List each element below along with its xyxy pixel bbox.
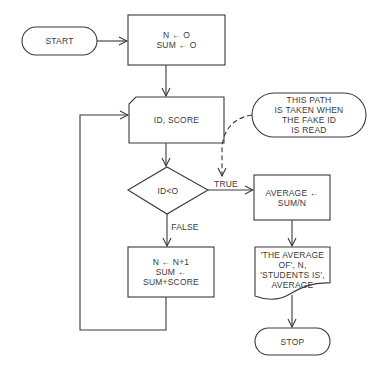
- false-edge-label: FALSE: [170, 222, 200, 232]
- init-label: N ← O SUM ← O: [128, 15, 225, 65]
- average-line-1: AVERAGE ←: [265, 188, 318, 198]
- output-line-4: AVERAGE: [272, 280, 314, 290]
- input-text: ID, SCORE: [154, 115, 199, 125]
- true-edge-label: TRUE: [212, 179, 240, 189]
- input-label: ID, SCORE: [129, 97, 224, 143]
- start-text: START: [45, 36, 73, 46]
- note-line-2: IS TAKEN WHEN: [275, 105, 344, 115]
- output-line-2: OF', N,: [278, 260, 306, 270]
- stop-text: STOP: [281, 337, 305, 347]
- accumulate-line-3: SUM+SCORE: [143, 277, 199, 287]
- average-label: AVERAGE ← SUM/N: [254, 175, 330, 220]
- output-label: 'THE AVERAGE OF', N, 'STUDENTS IS', AVER…: [255, 250, 330, 290]
- note-label: THIS PATH IS TAKEN WHEN THE FAKE ID IS R…: [252, 93, 366, 137]
- false-text: FALSE: [171, 222, 198, 232]
- init-line-1: N ← O: [163, 30, 190, 40]
- true-text: TRUE: [214, 179, 238, 189]
- edge-loop-back: [80, 115, 166, 330]
- output-line-1: 'THE AVERAGE: [261, 250, 324, 260]
- note-line-1: THIS PATH: [287, 95, 332, 105]
- init-line-2: SUM ← O: [156, 40, 196, 50]
- start-label: START: [22, 27, 97, 55]
- accumulate-line-1: N ← N+1: [153, 257, 190, 267]
- decision-text: ID<O: [158, 186, 179, 196]
- edge-note-dashed: [222, 115, 252, 176]
- stop-label: STOP: [255, 328, 330, 355]
- output-line-3: 'STUDENTS IS',: [260, 270, 325, 280]
- accumulate-label: N ← N+1 SUM ← SUM+SCORE: [128, 247, 214, 297]
- note-line-4: IS READ: [291, 125, 326, 135]
- average-line-2: SUM/N: [278, 198, 306, 208]
- accumulate-line-2: SUM ←: [156, 267, 187, 277]
- decision-label: ID<O: [128, 167, 208, 214]
- note-line-3: THE FAKE ID: [282, 115, 336, 125]
